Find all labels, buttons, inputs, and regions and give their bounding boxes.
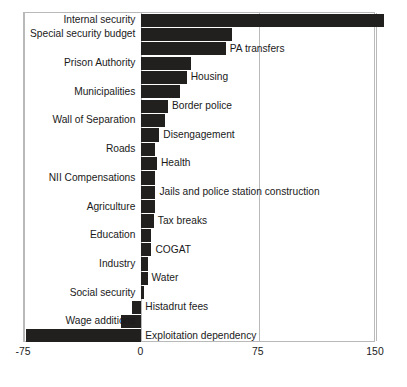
bar-row: Jails and police station construction (24, 185, 374, 199)
category-label: Education (90, 228, 135, 242)
bar (141, 14, 383, 27)
bar-row: COGAT (24, 243, 374, 257)
bar-row: Water (24, 271, 374, 285)
bar-row: Health (24, 156, 374, 170)
bar-row: Wall of Separation (24, 113, 374, 127)
category-label: Tax breaks (158, 214, 207, 228)
bar (141, 257, 147, 270)
bar (141, 200, 155, 213)
bar (141, 85, 180, 98)
bar-row: Agriculture (24, 200, 374, 214)
bar (141, 214, 154, 227)
bar (141, 57, 191, 70)
x-tick-label: 150 (366, 346, 383, 357)
bar (141, 157, 157, 170)
category-label: Water (152, 271, 179, 285)
category-label: Special security budget (30, 27, 135, 41)
bar (141, 42, 225, 55)
category-label: Exploitation dependency (145, 329, 256, 343)
bar-row: NII Compensations (24, 171, 374, 185)
bar-row: Special security budget (24, 27, 374, 41)
bar (141, 286, 144, 299)
bar-row: Exploitation dependency (24, 329, 374, 343)
bar-row: Histadrut fees (24, 300, 374, 314)
bar (141, 100, 168, 113)
bar-row: Roads (24, 142, 374, 156)
bar (141, 71, 186, 84)
category-label: Agriculture (87, 200, 136, 214)
bar (141, 272, 147, 285)
bar-row: Municipalities (24, 85, 374, 99)
category-label: PA transfers (230, 42, 285, 56)
category-label: Histadrut fees (145, 300, 208, 314)
bar (141, 243, 151, 256)
x-tick-label: -75 (15, 346, 30, 357)
bar-row: Prison Authority (24, 56, 374, 70)
category-label: Border police (172, 99, 232, 113)
bar-row: Tax breaks (24, 214, 374, 228)
bar (26, 329, 142, 342)
bar (141, 186, 155, 199)
category-label: Wall of Separation (52, 113, 135, 127)
bar-row: Disengagement (24, 128, 374, 142)
category-label: Industry (99, 257, 135, 271)
category-label: COGAT (156, 243, 191, 257)
x-tick-label: 75 (252, 346, 264, 357)
bar-row: Housing (24, 70, 374, 84)
category-label: Wage additions (65, 314, 135, 328)
bar (141, 143, 155, 156)
bar-chart: Internal securitySpecial security budget… (0, 0, 407, 387)
x-axis: -75075150 (23, 342, 375, 368)
bar-row: Border police (24, 99, 374, 113)
category-label: Social security (70, 286, 136, 300)
bar-row: PA transfers (24, 42, 374, 56)
plot-area: Internal securitySpecial security budget… (23, 12, 375, 342)
bar-row: Industry (24, 257, 374, 271)
bar-row: Internal security (24, 13, 374, 27)
category-label: Housing (191, 70, 228, 84)
x-tick-label: 0 (137, 346, 143, 357)
bar-row: Wage additions (24, 314, 374, 328)
gridline-150 (376, 13, 377, 341)
bar (141, 229, 151, 242)
category-label: Prison Authority (64, 56, 135, 70)
category-label: Health (161, 156, 190, 170)
category-label: NII Compensations (49, 171, 136, 185)
bar (141, 28, 232, 41)
bar-row: Education (24, 228, 374, 242)
bar (141, 114, 164, 127)
bar-row: Social security (24, 286, 374, 300)
bar (141, 171, 155, 184)
bar (141, 128, 159, 141)
category-label: Roads (106, 142, 135, 156)
category-label: Disengagement (163, 128, 234, 142)
category-label: Internal security (63, 13, 135, 27)
bar (132, 301, 141, 314)
category-label: Jails and police station construction (159, 185, 319, 199)
category-label: Municipalities (74, 85, 135, 99)
